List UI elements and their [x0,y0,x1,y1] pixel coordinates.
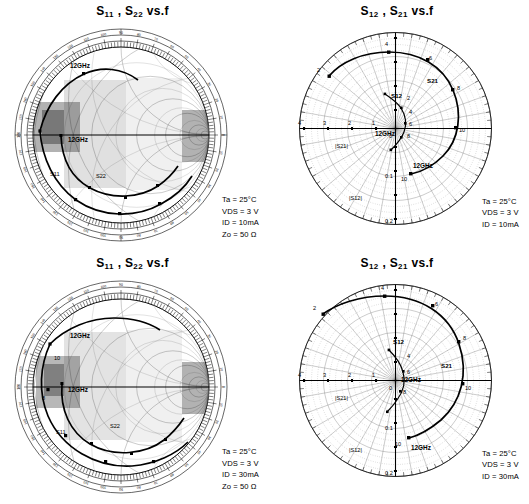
svg-text:70: 70 [153,37,158,42]
curve-label-s21: S21 [427,77,439,84]
condition-zo: Zo = 50 Ω [222,229,259,241]
panel-title: S12 , S21 vs.f [265,256,529,270]
marker-8-label: 8 [42,395,45,401]
title-sym-b: S [390,256,398,270]
svg-text:110: 110 [83,228,90,234]
s12-freq-marker-6: 6 [409,121,412,127]
radial-tick-s21-3: 3 [323,120,326,126]
svg-text:30: 30 [206,435,211,440]
svg-text:110: 110 [83,288,90,294]
title-sym-b: S [390,4,398,18]
polar-chart-plot: 4 3 2 1 0 0.1 0.2 |S21| |S12| [293,278,498,483]
polar-chart-svg: 4 3 2 1 0 0.1 0.2 |S21| |S12| [293,278,498,483]
annotation-12ghz-inner: 12GHz [375,130,395,137]
curve-label-s11: S11 [56,429,66,435]
condition-id: ID = 30mA [482,471,519,483]
svg-text:40: 40 [196,450,202,456]
svg-text:50: 50 [184,210,190,216]
radial-tick-s21-2: 2 [348,120,351,126]
title-sym-a: S [96,256,104,270]
freq-marker-6: 6 [429,55,432,61]
curve-label-s12: S12 [391,92,403,99]
annotation-12ghz-center: 12GHz [68,386,88,393]
svg-text:20: 20 [214,350,219,355]
panel-title: S11 , S22 vs.f [0,256,265,270]
freq-marker-10b: 10 [395,441,401,447]
condition-vds: VDS = 3 V [482,459,519,471]
svg-text:120: 120 [67,220,74,226]
title-sep: , [114,256,125,270]
polar-chart-plot: 4 3 2 1 0 0.1 0.2 |S21| |S12| [293,26,498,231]
title-sub-b: 21 [398,262,408,271]
smith-chart-plot: 0102030405060708090100110120130140150160… [6,18,236,248]
freq-marker-4: 4 [385,41,388,47]
figure-grid: S11 , S22 vs.f [0,0,529,504]
smith-chart-svg: 0102030405060708090100110120130140150160… [6,18,236,248]
s12-freq-marker-8: 8 [403,389,406,395]
conditions-block: Ta = 25°C VDS = 3 V ID = 30mA Zo = 50 Ω [222,446,259,492]
condition-ta: Ta = 25°C [482,448,519,460]
curve-label-s22: S22 [110,423,120,429]
condition-vds: VDS = 3 V [222,458,259,470]
svg-text:80: 80 [136,32,141,37]
svg-text:30: 30 [206,183,211,188]
svg-text:80: 80 [136,284,141,289]
annotation-12ghz-upper: 12GHz [70,332,90,339]
radial-tick-s21-3: 3 [323,372,326,378]
svg-text:180: 180 [17,384,21,390]
radial-tick-s21-2: 2 [348,372,351,378]
panel-title: S11 , S22 vs.f [0,4,265,18]
axis-label-s12: |S12| [349,195,362,201]
conditions-block: Ta = 25°C VDS = 3 V ID = 30mA [482,448,519,483]
s12-freq-marker-4: 4 [407,353,410,359]
curve-label-s12: S12 [393,338,405,345]
annotation-12ghz-inner: 12GHz [401,376,421,383]
curve-label-s22: S22 [96,173,106,179]
svg-text:160: 160 [22,418,28,425]
radial-tick-s21-0: 0 [389,385,392,391]
svg-text:60: 60 [169,472,174,477]
svg-text:60: 60 [169,44,174,49]
svg-text:0: 0 [221,386,225,388]
axis-label-s21: |S21| [335,395,348,401]
svg-text:120: 120 [67,44,74,50]
svg-text:140: 140 [40,449,47,456]
svg-text:90: 90 [119,235,123,239]
condition-ta: Ta = 25°C [482,196,519,208]
radial-tick-s21-1: 1 [372,120,375,126]
s12-freq-marker-4: 4 [409,109,412,115]
axis-label-s12: |S12| [349,447,362,453]
svg-text:50: 50 [184,306,190,312]
title-sub-a: 12 [369,262,379,271]
s12-freq-marker-2: 2 [407,95,410,101]
svg-text:80: 80 [136,485,141,490]
condition-id: ID = 10mA [482,219,519,231]
svg-text:150: 150 [30,81,36,88]
panel-s11-s22-30ma: S11 , S22 vs.f 0102030405060708090100110… [0,252,265,504]
title-sub-a: 12 [369,10,379,19]
condition-ta: Ta = 25°C [222,194,259,206]
svg-text:40: 40 [196,319,202,325]
condition-id: ID = 10mA [222,217,259,229]
svg-text:20: 20 [214,167,219,172]
smith-chart-svg: 0102030405060708090100110120130140150160… [6,270,236,500]
title-sub-b: 21 [398,10,408,19]
svg-text:110: 110 [83,36,90,42]
svg-text:180: 180 [17,132,21,138]
svg-text:120: 120 [67,296,74,302]
radial-tick-s21-4: 4 [298,372,301,378]
axis-label-s21: |S21| [335,143,348,149]
svg-text:160: 160 [22,166,28,173]
freq-marker-8: 8 [457,85,460,91]
panel-s11-s22-10ma: S11 , S22 vs.f [0,0,265,252]
freq-marker-6: 6 [435,301,438,307]
radial-tick-s12-01: 0.1 [385,425,393,431]
condition-ta: Ta = 25°C [222,446,259,458]
freq-marker-10: 10 [459,127,465,133]
svg-text:20: 20 [214,98,219,103]
title-tail: vs.f [143,4,169,18]
freq-marker-8: 8 [463,335,466,341]
title-sep: , [379,4,390,18]
annotation-12ghz: 12GHz [413,162,433,169]
title-sep: , [114,4,125,18]
